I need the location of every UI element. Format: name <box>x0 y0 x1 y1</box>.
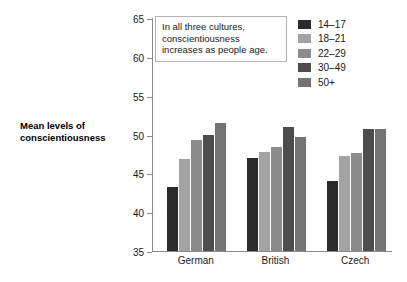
bar-chart: Mean levels of conscientiousness 3540455… <box>0 0 407 282</box>
y-tick-label: 60 <box>133 52 144 63</box>
legend-swatch-icon <box>298 34 311 43</box>
legend-swatch-icon <box>298 78 311 87</box>
y-axis-title-line2: conscientiousness <box>20 132 138 144</box>
y-tick-label: 40 <box>133 208 144 219</box>
y-tick-mark <box>147 58 152 59</box>
y-tick-label: 45 <box>133 169 144 180</box>
bar <box>363 129 374 251</box>
bar <box>259 152 270 251</box>
legend-label: 30–49 <box>318 62 346 73</box>
bar <box>351 153 362 251</box>
y-axis-title-line1: Mean levels of <box>20 120 138 132</box>
annotation-line-1: In all three cultures, <box>162 21 281 33</box>
legend-swatch-icon <box>298 20 311 29</box>
x-axis-label-czech: Czech <box>306 255 405 266</box>
bar <box>295 137 306 251</box>
x-axis-line <box>152 251 392 252</box>
bar <box>271 147 282 251</box>
y-tick-mark <box>147 252 152 253</box>
legend-item: 14–17 <box>298 17 378 32</box>
y-tick-label: 55 <box>133 91 144 102</box>
y-tick-mark <box>147 19 152 20</box>
legend-item: 22–29 <box>298 46 378 61</box>
bar <box>283 127 294 251</box>
y-axis-title: Mean levels of conscientiousness <box>20 120 138 143</box>
legend-label: 22–29 <box>318 48 346 59</box>
legend-label: 14–17 <box>318 19 346 30</box>
legend-item: 50+ <box>298 75 378 90</box>
legend-item: 30–49 <box>298 61 378 76</box>
annotation-line-2: conscientiousness <box>162 33 281 45</box>
annotation-callout: In all three cultures, conscientiousness… <box>155 16 287 62</box>
legend: 14–1718–2122–2930–4950+ <box>298 17 378 90</box>
annotation-line-3: increases as people age. <box>162 44 281 56</box>
bar <box>203 135 214 252</box>
bar <box>375 129 386 251</box>
legend-item: 18–21 <box>298 32 378 47</box>
bar <box>167 187 178 251</box>
bar <box>247 158 258 251</box>
y-tick-mark <box>147 213 152 214</box>
legend-swatch-icon <box>298 49 311 58</box>
bar <box>215 123 226 251</box>
y-tick-mark <box>147 97 152 98</box>
legend-label: 50+ <box>318 77 335 88</box>
bar <box>327 181 338 251</box>
y-tick-mark <box>147 174 152 175</box>
y-tick-mark <box>147 136 152 137</box>
bar <box>191 140 202 251</box>
bar <box>339 156 350 251</box>
legend-label: 18–21 <box>318 33 346 44</box>
legend-swatch-icon <box>298 63 311 72</box>
y-tick-label: 65 <box>133 14 144 25</box>
bar <box>179 159 190 251</box>
y-tick-label: 35 <box>133 247 144 258</box>
y-tick-label: 50 <box>133 130 144 141</box>
